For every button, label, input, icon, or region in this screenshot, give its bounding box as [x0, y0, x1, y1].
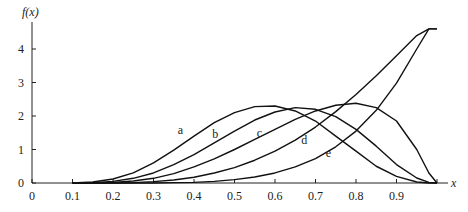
y-tick-label: 1 — [18, 143, 24, 157]
x-tick-label: 0.9 — [389, 189, 404, 203]
x-tick-label: 0.2 — [106, 189, 121, 203]
curve-a — [73, 106, 438, 183]
y-tick-label: 4 — [18, 42, 24, 56]
curve-label-d: d — [301, 133, 307, 147]
curve-label-b: b — [212, 127, 218, 141]
curve-label-a: a — [178, 123, 184, 137]
y-tick-label: 0 — [18, 176, 24, 190]
x-tick-label: 0 — [29, 189, 35, 203]
y-axis-label: f(x) — [22, 5, 39, 19]
x-tick-label: 0.7 — [308, 189, 323, 203]
curve-c — [73, 103, 438, 183]
x-axis-label: x — [450, 176, 457, 190]
x-tick-label: 0.1 — [65, 189, 80, 203]
x-tick-label: 0.5 — [227, 189, 242, 203]
x-tick-label: 0.8 — [349, 189, 364, 203]
curve-label-e: e — [326, 146, 331, 160]
x-tick-label: 0.3 — [146, 189, 161, 203]
curve-b — [73, 108, 438, 183]
curve-label-c: c — [257, 126, 262, 140]
x-tick-label: 0.6 — [268, 189, 283, 203]
x-tick-label: 0.4 — [187, 189, 202, 203]
y-tick-label: 2 — [18, 109, 24, 123]
curves: abcde — [73, 29, 438, 183]
y-tick-label: 3 — [18, 76, 24, 90]
chart: 00.10.20.30.40.50.60.70.80.901234f(x)x a… — [0, 0, 468, 212]
